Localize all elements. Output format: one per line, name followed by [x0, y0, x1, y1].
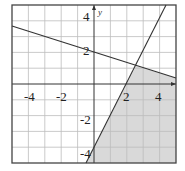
y-tick-label: -2	[80, 112, 91, 127]
x-tick-label: -2	[56, 89, 67, 104]
shaded-solution-region	[86, 66, 176, 163]
x-tick-label: 4	[155, 89, 162, 104]
y-axis-label: y	[97, 7, 102, 17]
y-tick-label: -4	[80, 146, 91, 161]
y-tick-label: 2	[83, 43, 90, 58]
x-tick-label: 2	[123, 89, 130, 104]
y-tick-label: 4	[83, 9, 90, 24]
x-tick-label: -4	[24, 89, 35, 104]
graph: -4 -2 2 4 4 2 -2 -4 y	[0, 0, 185, 171]
y-axis-arrow-icon	[92, 5, 96, 10]
